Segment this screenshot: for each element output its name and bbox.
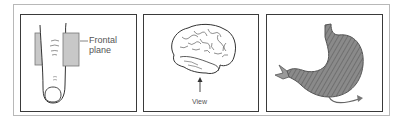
label-frontal-plane: Frontal plane [89,35,117,55]
label-view: View [192,97,207,107]
panel-stomach [266,14,383,112]
panel-brain-view: View [143,14,259,112]
stomach-icon [267,15,383,112]
label-frontal-line2: plane [89,45,111,55]
panel-finger-frontal-plane: Frontal plane [20,14,137,112]
finger-icon [21,15,137,112]
label-frontal-line1: Frontal [89,35,117,45]
